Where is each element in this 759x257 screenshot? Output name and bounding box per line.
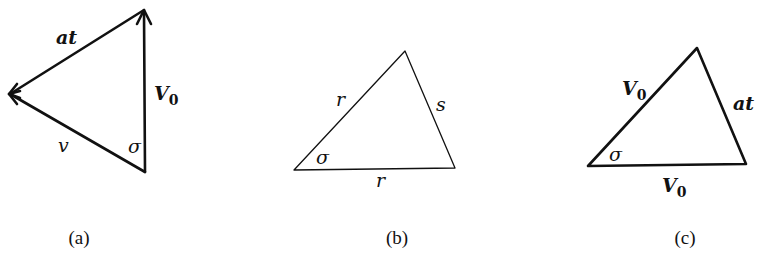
caption-a: (a) [68, 227, 89, 249]
label-r-side: r [336, 88, 347, 110]
label-at-c: at [733, 92, 754, 114]
label-v0-base: V0 [662, 174, 687, 200]
panel-a: at V0 v σ (a) [9, 10, 179, 249]
figure-canvas: at V0 v σ (a) r s r σ (b) V0 at V0 σ (c) [0, 0, 759, 257]
caption-b: (b) [386, 227, 408, 249]
caption-c: (c) [674, 227, 695, 249]
label-sigma-a: σ [128, 135, 142, 157]
panel-b: r s r σ (b) [294, 51, 455, 249]
label-sigma-c: σ [609, 143, 623, 165]
label-s: s [436, 93, 446, 115]
label-v0-side: V0 [622, 77, 647, 103]
at-vector-edge [10, 10, 144, 94]
label-v: v [58, 134, 69, 156]
panel-c: V0 at V0 σ (c) [588, 48, 754, 249]
label-v0: V0 [154, 82, 179, 108]
label-sigma-b: σ [316, 146, 330, 168]
v0-vector-edge [144, 11, 145, 172]
label-at: at [56, 26, 77, 48]
v-vector-edge [10, 94, 145, 172]
label-r-base: r [376, 169, 387, 191]
